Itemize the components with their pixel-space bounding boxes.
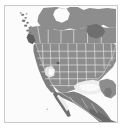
map-marker-dot[interactable] <box>46 108 48 110</box>
map-frame[interactable] <box>4 5 118 123</box>
lake-marker <box>56 62 59 64</box>
map-thumbnail-widget[interactable]: north-america-grayscale-thumbnail <box>0 0 122 129</box>
map-canvas[interactable] <box>5 6 117 122</box>
